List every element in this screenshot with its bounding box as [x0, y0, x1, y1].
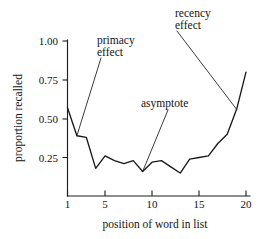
x-tick-label-20: 20 [241, 198, 253, 210]
x-tick-label-5: 5 [102, 198, 108, 210]
primacy-leader-line [77, 58, 101, 136]
annotation-recency-line2: effect [175, 19, 202, 31]
y-axis-title: proportion recalled [12, 74, 25, 162]
serial-position-curve-figure: 1.00 0.75 0.50 0.25 1 5 10 15 20 positio… [0, 0, 274, 239]
x-tick-label-10: 10 [147, 198, 159, 210]
y-tick-label-4: 1.00 [39, 35, 59, 47]
x-tick-label-1: 1 [65, 198, 71, 210]
y-tick-label-2: 0.50 [39, 113, 59, 125]
data-curve-proportion-recalled [68, 72, 247, 173]
annotation-primacy-line2: effect [97, 46, 124, 58]
y-tick-label-3: 0.75 [39, 74, 59, 86]
chart-canvas: 1.00 0.75 0.50 0.25 1 5 10 15 20 positio… [0, 0, 274, 239]
x-axis-title: position of word in list [103, 218, 209, 231]
y-tick-label-1: 0.25 [39, 152, 59, 164]
x-tick-label-15: 15 [194, 198, 206, 210]
annotation-asymptote-line1: asymptote [141, 97, 188, 110]
